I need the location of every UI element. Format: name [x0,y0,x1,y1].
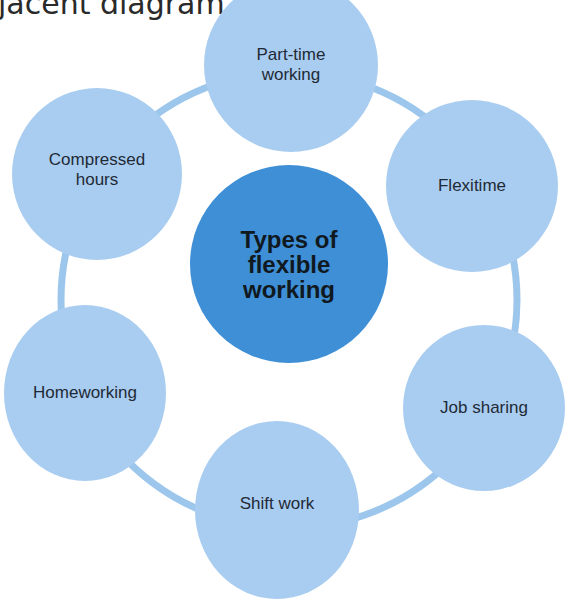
node-label: Homeworking [33,383,137,403]
center-label: Types of flexible working [229,227,349,302]
node-job-sharing: Job sharing [403,325,565,491]
node-label: Flexitime [438,176,506,196]
node-flexitime: Flexitime [386,100,558,272]
node-homeworking: Homeworking [4,305,166,481]
node-label: Compressed hours [47,150,147,190]
node-label: Part-time working [246,45,336,85]
node-label: Job sharing [440,398,528,418]
node-shift-work: Shift work [195,421,359,599]
node-compressed-hours: Compressed hours [12,88,182,260]
node-label: Shift work [240,494,315,514]
center-node: Types of flexible working [190,165,388,363]
